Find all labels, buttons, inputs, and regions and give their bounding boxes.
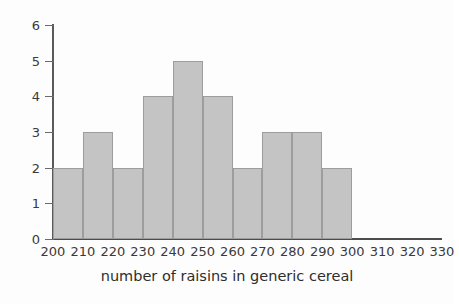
y-tick-label-6: 6 bbox=[18, 19, 40, 32]
histogram-bar bbox=[113, 168, 143, 239]
histogram-bar bbox=[53, 168, 83, 239]
y-tick-5 bbox=[45, 61, 54, 62]
histogram-bar bbox=[173, 61, 203, 239]
x-axis-title: number of raisins in generic cereal bbox=[0, 268, 454, 284]
histogram-bar bbox=[322, 168, 352, 239]
histogram-bar bbox=[233, 168, 263, 239]
histogram-bar bbox=[292, 132, 322, 239]
histogram-bar bbox=[143, 96, 173, 239]
x-tick-label-330: 330 bbox=[422, 245, 459, 258]
histogram-bar bbox=[83, 132, 113, 239]
y-tick-0 bbox=[45, 239, 54, 240]
histogram-bar bbox=[262, 132, 292, 239]
y-tick-label-4: 4 bbox=[18, 90, 40, 103]
y-tick-6 bbox=[45, 25, 54, 26]
y-tick-label-2: 2 bbox=[18, 162, 40, 175]
y-tick-label-1: 1 bbox=[18, 197, 40, 210]
histogram-bar bbox=[203, 96, 233, 239]
y-tick-label-3: 3 bbox=[18, 126, 40, 139]
y-tick-4 bbox=[45, 96, 54, 97]
y-tick-label-5: 5 bbox=[18, 55, 40, 68]
y-tick-3 bbox=[45, 132, 54, 133]
